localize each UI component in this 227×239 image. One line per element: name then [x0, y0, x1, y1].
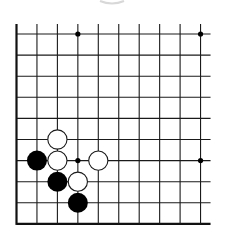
- go-board-diagram: [0, 0, 227, 239]
- stones: [27, 130, 108, 213]
- star-point: [198, 31, 203, 36]
- white-stone: [48, 130, 67, 149]
- black-stone: [68, 193, 88, 213]
- star-point: [198, 158, 203, 163]
- black-stone: [27, 151, 47, 171]
- white-stone: [68, 172, 87, 191]
- top-partial-arc: [100, 1, 124, 4]
- white-stone: [48, 151, 67, 170]
- black-stone: [47, 172, 67, 192]
- star-point: [75, 31, 80, 36]
- white-stone: [89, 151, 108, 170]
- star-point: [75, 158, 80, 163]
- board-grid: [17, 24, 211, 225]
